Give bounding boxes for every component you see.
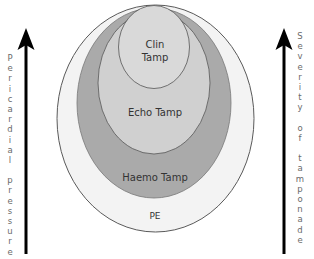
axis-label-char: r [8,73,12,83]
axis-label-char: l [9,155,11,165]
axis-label-char: S [297,31,302,41]
axis-label-char: s [8,216,12,226]
axis-label-char [9,165,12,175]
axis-label-char: a [297,163,302,173]
axis-label-char: a [7,145,12,155]
axis-label-char: i [9,135,11,145]
axis-label-char: e [297,41,302,51]
axis-label-char [299,143,302,153]
echo-tamp-label: Echo Tamp [128,106,182,119]
right-up-arrow-icon [276,28,293,254]
left-axis-label: Pericardial pressure [3,53,17,257]
pe-label: PE [149,210,160,223]
axis-label-char: e [7,63,12,73]
axis-label-char: P [7,53,12,63]
axis-label-char: a [7,104,12,114]
axis-label-char: u [7,226,12,236]
axis-label-char: r [298,72,302,82]
axis-label-char: o [297,194,302,204]
haemo-tamp-label: Haemo Tamp [122,171,188,184]
axis-label-char: e [7,247,12,257]
left-up-arrow-icon [18,28,35,254]
axis-label-char: e [297,235,302,245]
axis-label-char: c [8,94,13,104]
axis-label-char: p [7,175,12,185]
axis-label-char: f [299,133,302,143]
axis-label-char: t [298,153,301,163]
axis-label-char: n [297,204,302,214]
clin-tamp-label: Clin Tamp [142,38,169,64]
axis-label-char: s [8,206,12,216]
clin-label-line2: Tamp [142,51,169,64]
axis-label-char: r [8,114,12,124]
right-axis-label: Severity of tamponade [293,31,307,245]
axis-label-char: d [7,124,12,134]
axis-label-char: p [297,184,302,194]
axis-label-char: i [299,82,301,92]
axis-label-char: a [297,214,302,224]
axis-label-char [299,113,302,123]
axis-label-char: o [297,123,302,133]
axis-label-char: e [297,62,302,72]
axis-label-char: m [296,174,304,184]
axis-label-char: y [297,102,302,112]
axis-label-char: d [297,225,302,235]
axis-label-char: r [8,185,12,195]
axis-label-char: t [298,92,301,102]
axis-label-char: i [9,84,11,94]
axis-label-char: v [297,51,302,61]
axis-label-char: e [7,196,12,206]
clin-label-line1: Clin [142,38,169,51]
axis-label-char: r [8,236,12,246]
